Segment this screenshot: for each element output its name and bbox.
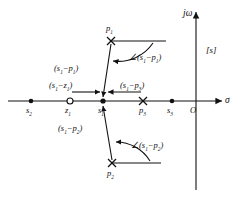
point-label-z1: z1 — [65, 106, 71, 117]
vector-s1-minus-p2 — [103, 106, 112, 160]
point-label-s3: s3 — [167, 106, 173, 117]
point-marker-s3 — [170, 99, 175, 104]
angle-label-s1-minus-p1-sym: ∠(s — [129, 52, 143, 62]
vector-label-s1-minus-z1-minus: −z — [58, 80, 67, 90]
point-marker-z1 — [67, 98, 73, 104]
point-label-s3-sub: 3 — [170, 111, 173, 117]
vector-label-s1-minus-p1-minus: −p — [63, 63, 73, 73]
vector-label-s1-minus-p3: (s1−p3) — [120, 81, 144, 92]
angle-label-s1-minus-p1-minus: −p — [146, 52, 156, 62]
point-label-p1-sub: 1 — [110, 29, 113, 35]
point-label-p3-sub: 3 — [143, 111, 146, 117]
vector-label-s1-minus-z1-close: ) — [69, 80, 72, 90]
point-marker-s2 — [29, 99, 34, 104]
s-plane-pole-zero-figure: [s] σ jω s2 z1 s1 p3 s3 O p1 p2 (s1−z1) … — [0, 0, 236, 198]
point-label-p2-sub: 2 — [111, 174, 114, 180]
point-marker-s1 — [100, 98, 105, 103]
plane-designator-label: [s] — [206, 46, 217, 55]
point-label-s1-sub: 1 — [101, 111, 104, 117]
vector-label-s1-minus-p3-close: ) — [141, 80, 144, 90]
point-label-origin: O — [190, 106, 196, 115]
axis-label-sigma: σ — [225, 96, 230, 106]
angle-label-s1-minus-p2-minus: −p — [148, 140, 158, 150]
angle-label-s1-minus-p1: ∠(s1−p1) — [129, 53, 161, 64]
vector-label-s1-minus-p2-close: ) — [79, 123, 82, 133]
point-label-s2: s2 — [26, 106, 32, 117]
axis-label-jomega: jω — [183, 9, 192, 19]
angle-label-s1-minus-p1-close: ) — [158, 52, 161, 62]
angle-label-s1-minus-p2-close: ) — [160, 140, 163, 150]
vector-label-s1-minus-p2-minus: −p — [67, 123, 77, 133]
vector-label-s1-minus-p2: (s1−p2) — [58, 124, 82, 135]
vector-label-s1-minus-p1: (s1−p1) — [54, 64, 78, 75]
point-label-s1: s1 — [98, 106, 104, 117]
pole-zero-plot — [0, 0, 236, 198]
vector-label-s1-minus-z1: (s1−z1) — [49, 81, 72, 92]
point-label-p3: p3 — [139, 106, 146, 117]
angle-label-s1-minus-p2-sym: ∠(s — [131, 140, 145, 150]
vector-s1-minus-p1 — [103, 44, 111, 97]
point-label-s2-sub: 2 — [29, 111, 32, 117]
point-label-p1: p1 — [106, 24, 113, 35]
point-label-p2: p2 — [107, 169, 114, 180]
angle-label-s1-minus-p2: ∠(s1−p2) — [131, 141, 163, 152]
vector-label-s1-minus-p1-close: ) — [75, 63, 78, 73]
point-label-z1-sub: 1 — [68, 111, 71, 117]
vector-label-s1-minus-p3-minus: −p — [129, 80, 139, 90]
